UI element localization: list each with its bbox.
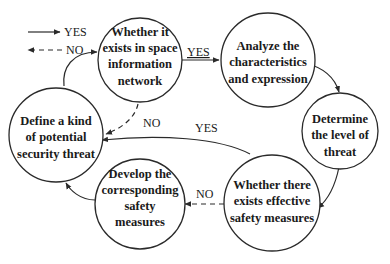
node-line: of potential (26, 130, 87, 144)
node-line: Develop the (109, 167, 172, 181)
node-line: corresponding (102, 183, 180, 197)
node-line: safety (124, 199, 156, 213)
node-line: exists in space (103, 41, 178, 55)
legend-yes: YES (28, 25, 87, 39)
edge-label-no-n1-n6: NO (143, 116, 161, 130)
node-line: network (118, 74, 162, 88)
node-line: information (108, 57, 172, 71)
flow-diagram: YES NO YES YES NO NO Wh (0, 0, 390, 264)
legend-no: NO (28, 43, 84, 57)
node-analyze-characteristics: Analyze the characteristics and expressi… (221, 13, 315, 107)
node-line: safety measures (230, 211, 314, 225)
edge-n4-n6 (102, 137, 250, 154)
node-line: the level of (311, 128, 369, 142)
node-line: Whether there (233, 178, 311, 192)
node-line: and expression (228, 72, 307, 86)
edge-label-no-n4-n5: NO (196, 187, 214, 201)
node-line: characteristics (229, 55, 307, 69)
edge-n5-n6 (66, 183, 95, 200)
edge-n6-n1 (64, 52, 97, 86)
node-line: threat (324, 145, 357, 159)
node-define-potential-threat: Define a kind of potential security thre… (9, 88, 103, 182)
edge-n3-n4 (318, 167, 339, 208)
node-line: Determine (312, 112, 369, 126)
node-determine-threat-level: Determine the level of threat (302, 93, 378, 169)
node-develop-safety-measures: Develop the corresponding safety measure… (95, 159, 185, 249)
node-line: security threat (17, 147, 96, 161)
edge-n1-n6 (106, 104, 138, 134)
node-line: measures (115, 215, 165, 229)
legend-yes-label: YES (64, 25, 87, 39)
edge-label-yes-n1-n2: YES (187, 45, 210, 59)
node-line: Define a kind (20, 114, 92, 128)
edge-label-yes-n4-n6: YES (195, 121, 218, 135)
node-whether-exists-in-network: Whether it exists in space information n… (98, 18, 182, 102)
node-line: Whether it (111, 25, 170, 39)
node-line: exists effective (234, 194, 311, 208)
legend: YES NO (28, 25, 87, 57)
node-line: Analyze the (237, 39, 300, 53)
node-whether-effective-measures: Whether there exists effective safety me… (224, 155, 320, 251)
